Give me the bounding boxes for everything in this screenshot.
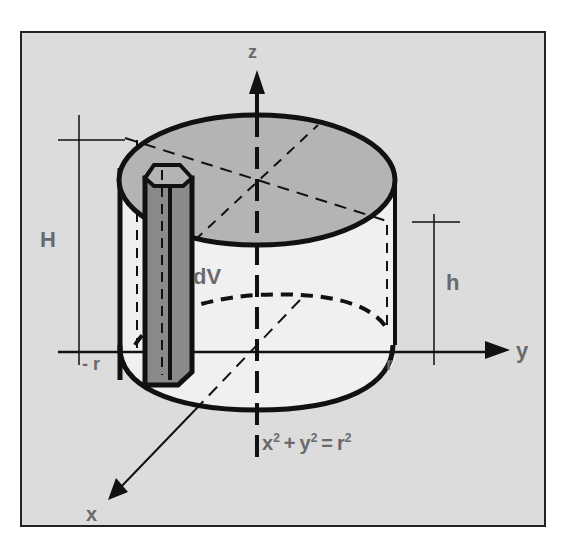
H-label: H — [40, 227, 56, 252]
y-axis-arrowhead — [485, 341, 510, 359]
neg-r-label: - r — [82, 354, 100, 374]
dv-label: dV — [193, 264, 221, 289]
y-axis-label: y — [516, 338, 529, 363]
dv-column — [145, 165, 192, 385]
h-label: h — [446, 270, 459, 295]
cylinder-volume-diagram: z y x dV H - r h r x2+y2=r2 — [0, 0, 563, 549]
circle-equation: x2+y2=r2 — [262, 431, 352, 454]
x-axis-label: x — [86, 503, 97, 525]
r-label: r — [386, 354, 393, 374]
z-axis-label: z — [248, 42, 257, 62]
x-axis — [118, 410, 195, 490]
z-axis-arrowhead — [249, 70, 265, 94]
